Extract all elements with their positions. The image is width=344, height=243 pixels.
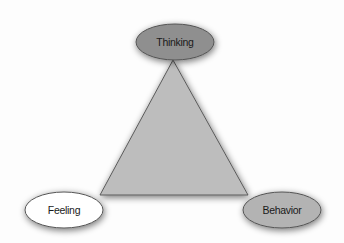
- diagram-canvas: Thinking Feeling Behavior: [0, 0, 344, 243]
- node-behavior: Behavior: [243, 192, 321, 228]
- thinking-label: Thinking: [156, 36, 194, 48]
- center-triangle: [100, 60, 248, 195]
- behavior-label: Behavior: [262, 204, 302, 216]
- node-feeling: Feeling: [25, 192, 103, 228]
- triangle-diagram: Thinking Feeling Behavior: [0, 0, 344, 243]
- node-thinking: Thinking: [136, 24, 214, 60]
- feeling-label: Feeling: [48, 204, 81, 216]
